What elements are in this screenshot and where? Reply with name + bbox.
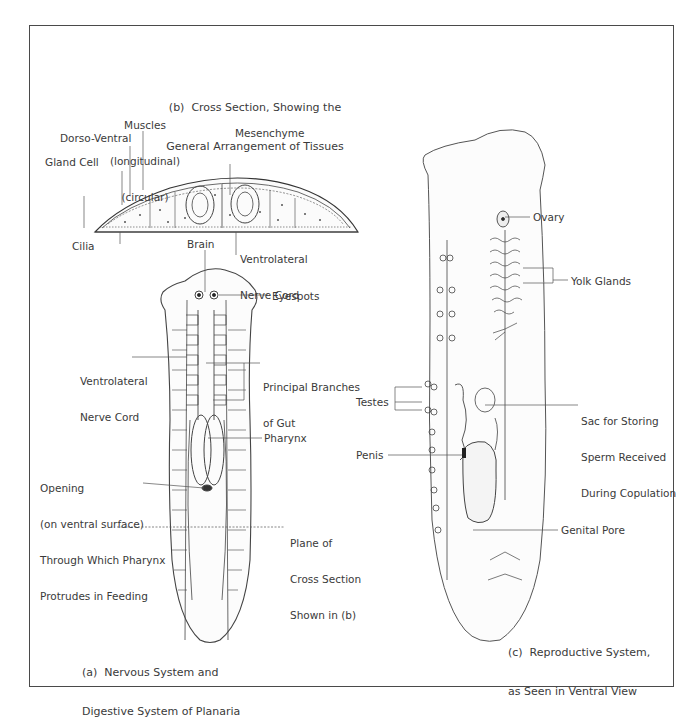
label-text: Sperm Received xyxy=(581,451,676,463)
label-gland-cell: Gland Cell xyxy=(45,156,99,168)
label-brain: Brain xyxy=(187,238,215,250)
label-ventrolateral-nerve-cord-a: Ventrolateral Nerve Cord xyxy=(80,351,148,435)
label-text: During Copulation xyxy=(581,487,676,499)
label-ovary: Ovary xyxy=(533,211,564,223)
caption-line: (a) Nervous System and xyxy=(82,666,240,679)
label-text: Nerve Cord xyxy=(80,411,148,423)
label-text: Opening xyxy=(40,482,165,494)
label-text: Cross Section xyxy=(290,573,361,585)
label-dorso-ventral: Dorso-Ventral xyxy=(60,132,131,144)
label-text: Through Which Pharynx xyxy=(40,554,165,566)
label-testes: Testes xyxy=(356,396,389,408)
label-text: (on ventral surface) xyxy=(40,518,165,530)
label-muscles: Muscles (longitudinal) (circular) xyxy=(105,95,185,215)
label-text: Muscles xyxy=(105,119,185,131)
nervous-digestive-drawing xyxy=(161,269,257,643)
label-principal-branches-of-gut: Principal Branches of Gut xyxy=(263,357,360,441)
label-text: Ventrolateral xyxy=(240,253,308,265)
label-yolk-glands: Yolk Glands xyxy=(571,275,631,287)
label-text: Ventrolateral xyxy=(80,375,148,387)
label-text: Shown in (b) xyxy=(290,609,361,621)
label-sac-for-storing-sperm: Sac for Storing Sperm Received During Co… xyxy=(581,391,676,511)
panel-c-caption: (c) Reproductive System, as Seen in Vent… xyxy=(508,620,650,711)
label-text: Sac for Storing xyxy=(581,415,676,427)
label-eyespots: Eyespots xyxy=(272,290,319,302)
label-text: (longitudinal) xyxy=(105,155,185,167)
label-text: Plane of xyxy=(290,537,361,549)
reproductive-drawing xyxy=(423,130,546,641)
label-text: Protrudes in Feeding xyxy=(40,590,165,602)
caption-line: (c) Reproductive System, xyxy=(508,646,650,659)
caption-line: Digestive System of Planaria xyxy=(82,705,240,718)
caption-line: as Seen in Ventral View xyxy=(508,685,650,698)
label-mesenchyme: Mesenchyme xyxy=(235,127,304,139)
label-text: of Gut xyxy=(263,417,360,429)
label-pharynx: Pharynx xyxy=(264,432,307,444)
label-text: Principal Branches xyxy=(263,381,360,393)
label-plane-of-cross-section: Plane of Cross Section Shown in (b) xyxy=(290,513,361,633)
label-text: (circular) xyxy=(105,191,185,203)
label-opening: Opening (on ventral surface) Through Whi… xyxy=(40,458,165,614)
label-cilia: Cilia xyxy=(72,240,95,252)
label-genital-pore: Genital Pore xyxy=(561,524,625,536)
label-penis: Penis xyxy=(356,449,383,461)
panel-a-caption: (a) Nervous System and Digestive System … xyxy=(82,640,240,721)
